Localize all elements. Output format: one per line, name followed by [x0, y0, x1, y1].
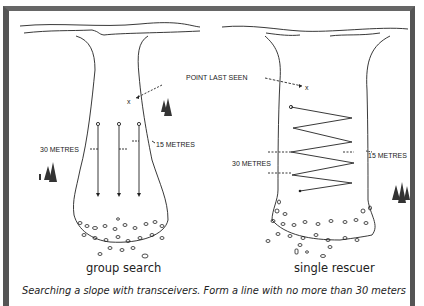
tree-icon — [39, 98, 172, 182]
left-ridge-top — [20, 23, 200, 27]
tree-icon — [392, 182, 410, 203]
right-label-30-metres: 30 METRES — [232, 160, 271, 167]
debris-rocks-right — [266, 200, 372, 258]
debris-rocks-left — [78, 218, 164, 258]
left-couloir-bottom — [74, 215, 168, 242]
left-couloir-wall-right — [138, 36, 168, 220]
label-point-last-seen: POINT LAST SEEN — [186, 74, 248, 81]
left-marker-x: x — [127, 98, 131, 105]
caption-single-rescuer: single rescuer — [294, 261, 375, 275]
footer-description: Searching a slope with transceivers. For… — [22, 284, 406, 296]
left-ridge-bottom — [24, 30, 200, 35]
right-label-15-metres: 15 METRES — [368, 152, 407, 159]
left-label-15-metres: 15 METRES — [156, 141, 195, 148]
caption-group-search: group search — [86, 261, 161, 275]
left-couloir-wall-left — [73, 36, 95, 215]
right-marker-x: x — [305, 84, 309, 91]
left-label-30-metres: 30 METRES — [40, 146, 79, 153]
